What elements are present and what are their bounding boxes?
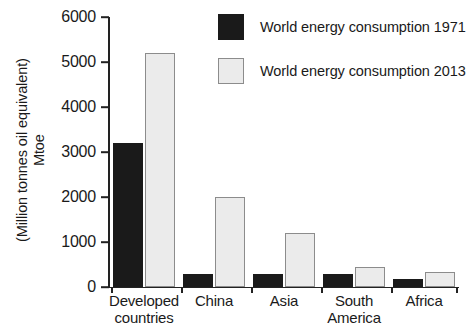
x-axis-tick-mark xyxy=(251,287,253,293)
y-axis-title-line-1: Mtoe xyxy=(31,134,48,166)
bar-chart: Mtoe (Million tonnes oil equivalent) 010… xyxy=(0,0,466,332)
legend-item: World energy consumption 1971 xyxy=(218,12,466,42)
y-axis-tick-mark xyxy=(101,241,109,243)
legend-item: World energy consumption 2013 xyxy=(218,56,466,86)
bar xyxy=(253,274,283,287)
y-axis-tick-labels: 0100020003000400050006000 xyxy=(48,0,96,332)
x-axis-tick-mark xyxy=(391,287,393,293)
bar xyxy=(183,274,213,287)
x-axis-tick-mark xyxy=(321,287,323,293)
legend-label: World energy consumption 2013 xyxy=(260,63,466,79)
y-axis-tick-label: 5000 xyxy=(61,53,96,71)
y-axis-tick-label: 4000 xyxy=(61,98,96,116)
y-axis-tick-label: 1000 xyxy=(61,233,96,251)
y-axis-tick-label: 3000 xyxy=(61,143,96,161)
chart-legend: World energy consumption 1971World energ… xyxy=(218,12,466,100)
bar xyxy=(393,279,423,287)
x-axis-tick-mark xyxy=(456,287,458,293)
y-axis-tick-mark xyxy=(101,16,109,18)
x-axis-tick-mark xyxy=(181,287,183,293)
y-axis-title-line-2: (Million tonnes oil equivalent) xyxy=(14,58,31,242)
y-axis-tick-mark xyxy=(101,196,109,198)
y-axis-tick-mark xyxy=(101,151,109,153)
x-axis-category-label: Africa xyxy=(389,293,459,310)
legend-label: World energy consumption 1971 xyxy=(260,19,466,35)
x-axis-category-label: Asia xyxy=(249,293,319,310)
y-axis-tick-mark xyxy=(101,106,109,108)
bar xyxy=(215,197,245,287)
y-axis-tick-mark xyxy=(101,286,109,288)
x-axis-category-label: China xyxy=(179,293,249,310)
y-axis-tick-label: 2000 xyxy=(61,188,96,206)
bar xyxy=(145,53,175,287)
x-axis-category-label: SouthAmerica xyxy=(319,293,389,327)
y-axis-tick-label: 0 xyxy=(87,278,96,296)
bar xyxy=(285,233,315,287)
bar xyxy=(323,274,353,287)
bar xyxy=(425,272,455,287)
x-axis-tick-mark xyxy=(111,287,113,293)
bar-group xyxy=(109,17,179,287)
legend-swatch-icon xyxy=(218,14,244,40)
x-axis-category-label: Developedcountries xyxy=(109,293,179,327)
bar xyxy=(113,143,143,287)
bar xyxy=(355,267,385,287)
legend-swatch-icon xyxy=(218,58,244,84)
y-axis-tick-label: 6000 xyxy=(61,8,96,26)
y-axis-tick-mark xyxy=(101,61,109,63)
